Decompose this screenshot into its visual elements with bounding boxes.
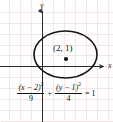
term2-denominator: 4 <box>66 94 72 103</box>
ellipse-graph-figure: y x (2, 1) (x − 2)2 9 + (y − 1)2 4 = 1 <box>0 0 113 122</box>
ellipse-curve <box>0 0 113 122</box>
y-axis-label: y <box>40 2 44 10</box>
center-coordinate-label: (2, 1) <box>53 44 73 53</box>
term2-numerator-exponent: 2 <box>78 81 81 87</box>
x-axis-label: x <box>108 62 112 70</box>
term2-numerator-base: (y − 1) <box>56 83 78 92</box>
ellipse-path <box>34 31 97 78</box>
ellipse-equation: (x − 2)2 9 + (y − 1)2 4 = 1 <box>0 84 113 103</box>
equation-term-1: (x − 2)2 9 <box>17 84 44 103</box>
term1-denominator: 9 <box>28 94 34 103</box>
equation-term-2: (y − 1)2 4 <box>55 84 82 103</box>
term1-numerator-exponent: 2 <box>41 81 44 87</box>
term2-numerator: (y − 1)2 <box>55 84 82 93</box>
center-dot <box>64 57 68 61</box>
equation-plus-operator: + <box>46 90 53 98</box>
equation-equals-one: = 1 <box>84 90 96 98</box>
term1-numerator-base: (x − 2) <box>18 83 40 92</box>
term1-numerator: (x − 2)2 <box>17 84 44 93</box>
